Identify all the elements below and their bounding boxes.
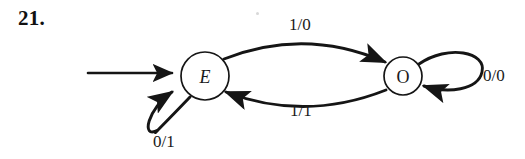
state-node-o: O bbox=[384, 57, 422, 95]
transition-label-o-self-loop: 0/0 bbox=[483, 67, 505, 84]
fsm-figure: 21. bbox=[0, 0, 525, 159]
self-loop-o bbox=[419, 52, 482, 90]
state-label-e: E bbox=[199, 67, 211, 87]
state-node-e: E bbox=[181, 52, 229, 100]
transition-e-to-o bbox=[224, 44, 385, 62]
transition-label-e-self-loop: 0/1 bbox=[153, 133, 175, 150]
transition-label-o-to-e: 1/1 bbox=[290, 102, 312, 119]
state-label-o: O bbox=[397, 67, 410, 87]
state-machine-diagram: E O bbox=[0, 0, 525, 159]
transition-label-e-to-o: 1/0 bbox=[289, 16, 311, 33]
self-loop-e bbox=[148, 92, 190, 133]
